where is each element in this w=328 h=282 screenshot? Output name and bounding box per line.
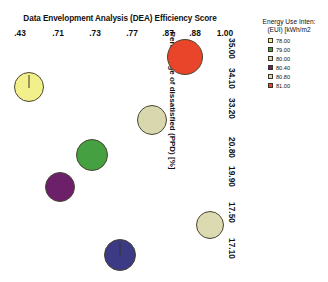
legend-item-label: 80.00 xyxy=(276,56,290,62)
bubble-slice-divider xyxy=(120,242,121,256)
legend-item-label: 80.80 xyxy=(276,74,290,80)
legend-item-label: 80.40 xyxy=(276,65,290,71)
data-point-bubble[interactable] xyxy=(137,105,167,135)
data-point-bubble[interactable] xyxy=(104,239,136,271)
legend-item-list: 78.0079.0080.0080.4080.8081.00 xyxy=(252,37,326,90)
data-point-bubble[interactable] xyxy=(14,72,44,102)
legend-item[interactable]: 81.00 xyxy=(268,82,326,90)
legend-item[interactable]: 80.00 xyxy=(268,55,326,63)
bubble-chart: Data Envelopment Analysis (DEA) Efficien… xyxy=(0,0,328,282)
bubble-slice-divider xyxy=(29,75,30,88)
legend-item[interactable]: 80.80 xyxy=(268,73,326,81)
legend-item-label: 78.00 xyxy=(276,38,290,44)
legend-item[interactable]: 79.00 xyxy=(268,46,326,54)
legend-item[interactable]: 78.00 xyxy=(268,37,326,45)
data-point-bubble[interactable] xyxy=(167,39,203,75)
legend-color-swatch xyxy=(268,65,273,70)
data-point-bubble[interactable] xyxy=(45,172,75,202)
legend-color-swatch xyxy=(268,83,273,88)
legend-title-line2: (EUI) [kWh/m2 xyxy=(252,26,326,34)
legend: Energy Use Inten: (EUI) [kWh/m2 78.0079.… xyxy=(252,18,326,91)
legend-title-line1: Energy Use Inten: xyxy=(252,18,326,26)
legend-color-swatch xyxy=(268,74,273,79)
legend-color-swatch xyxy=(268,38,273,43)
data-point-bubble[interactable] xyxy=(196,211,224,239)
data-point-bubble[interactable] xyxy=(76,139,108,171)
legend-color-swatch xyxy=(268,47,273,52)
legend-item[interactable]: 80.40 xyxy=(268,64,326,72)
legend-color-swatch xyxy=(268,56,273,61)
legend-item-label: 81.00 xyxy=(276,83,290,89)
legend-item-label: 79.00 xyxy=(276,47,290,53)
